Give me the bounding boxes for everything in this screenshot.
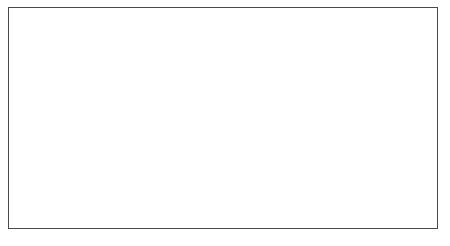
chart-frame	[8, 7, 438, 229]
chart-container: 0100200300400500600051015202530354045501…	[0, 0, 450, 246]
